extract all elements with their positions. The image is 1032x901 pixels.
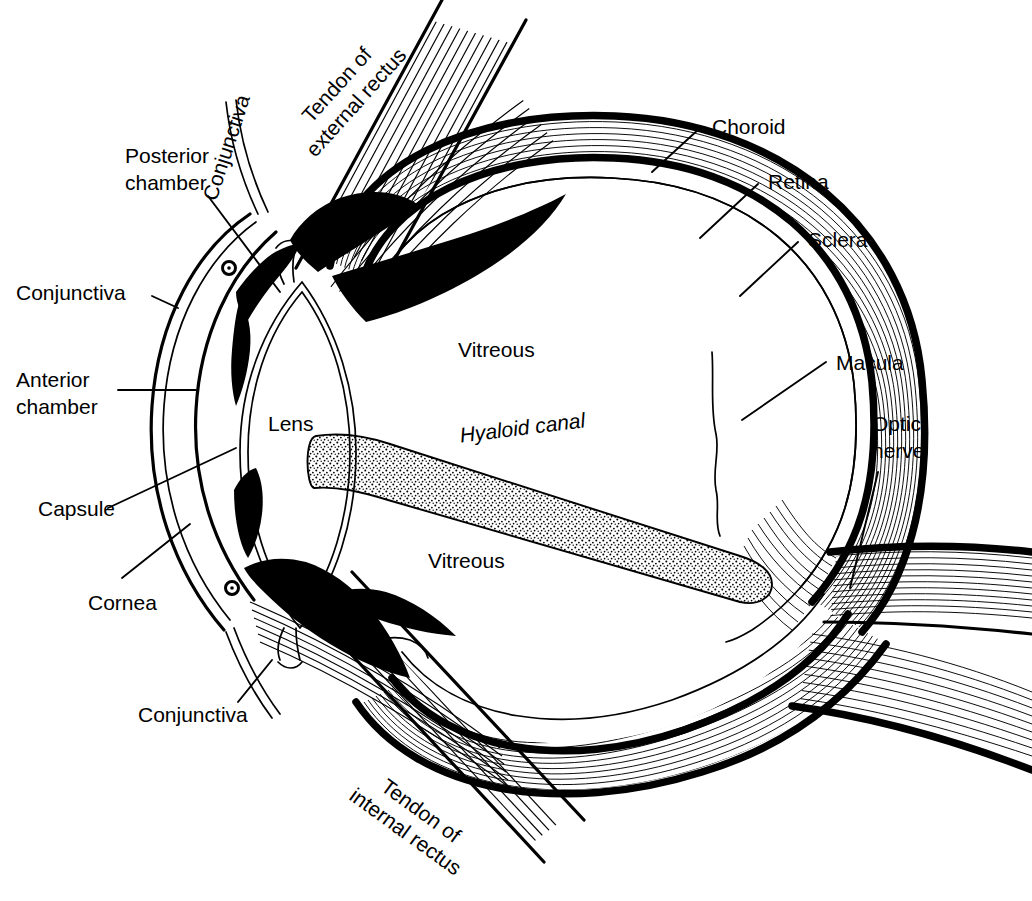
label-lens: Lens [268, 412, 314, 435]
label-choroid: Choroid [712, 115, 786, 138]
label-cornea: Cornea [88, 591, 157, 614]
eye-cross-section-svg: Tendon of external rectus Conjunctiva Po… [0, 0, 1032, 901]
label-posterior-chamber-line1: Posterior [125, 144, 209, 167]
label-optic-nerve-line1: Optic [872, 412, 921, 435]
label-anterior-chamber-line1: Anterior [16, 368, 90, 391]
label-sclera: Sclera [808, 228, 868, 251]
label-conjunctiva-left: Conjunctiva [16, 281, 126, 304]
label-retina: Retina [768, 170, 829, 193]
label-vitreous-lower: Vitreous [428, 549, 505, 572]
label-conjunctiva-lower: Conjunctiva [138, 703, 248, 726]
eye-anatomy-diagram: Tendon of external rectus Conjunctiva Po… [0, 0, 1032, 901]
label-vitreous-upper: Vitreous [458, 338, 535, 361]
label-capsule: Capsule [38, 497, 115, 520]
label-posterior-chamber-line2: chamber [125, 171, 207, 194]
label-anterior-chamber-line2: chamber [16, 395, 98, 418]
label-macula: Macula [836, 351, 904, 374]
label-optic-nerve-line2: nerve [872, 439, 925, 462]
